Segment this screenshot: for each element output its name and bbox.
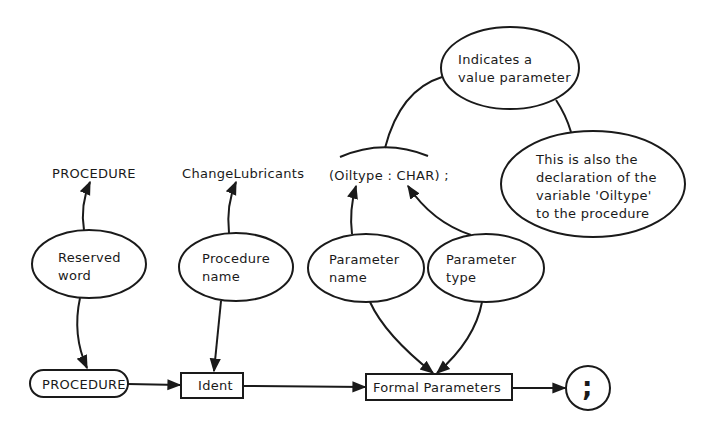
token-procedure-name: ChangeLubricants xyxy=(182,166,304,181)
note-reserved-word-line1: Reserved xyxy=(58,250,121,265)
arrow-paramtype-to-token xyxy=(408,186,471,235)
note-procedure-name: Procedure name xyxy=(179,233,293,301)
flow-procedure-to-ident xyxy=(128,384,180,385)
note-reserved-word: Reserved word xyxy=(32,230,146,298)
note-value-parameter: Indicates a value parameter xyxy=(441,27,579,109)
note-procedure-name-line1: Procedure xyxy=(202,251,270,266)
syntax-node-ident-label: Ident xyxy=(198,378,233,393)
connector-arc-to-value-note xyxy=(385,77,442,148)
note-declaration-line2: declaration of the xyxy=(536,170,657,185)
note-declaration: This is also the declaration of the vari… xyxy=(501,131,685,237)
arrow-reserved-to-token xyxy=(83,182,90,230)
procedure-syntax-diagram: PROCEDURE ChangeLubricants (Oiltype : CH… xyxy=(0,0,704,423)
arrow-paramname-to-token xyxy=(351,186,356,234)
syntax-node-procedure: PROCEDURE xyxy=(30,370,128,397)
note-parameter-name: Parameter name xyxy=(308,234,424,302)
flow-ident-to-formal xyxy=(243,386,365,387)
syntax-node-ident: Ident xyxy=(181,373,243,398)
syntax-node-formal-parameters: Formal Parameters xyxy=(366,374,512,400)
arrow-procname-to-token xyxy=(228,182,236,233)
note-declaration-line4: to the procedure xyxy=(536,206,649,221)
syntax-node-procedure-label: PROCEDURE xyxy=(42,377,126,392)
arrow-paramname-to-node xyxy=(370,302,433,373)
note-value-parameter-line2: value parameter xyxy=(458,70,571,85)
note-parameter-type: Parameter type xyxy=(428,234,544,302)
connector-value-to-declaration xyxy=(556,100,571,132)
syntax-node-semicolon: ; xyxy=(566,366,610,410)
note-reserved-word-line2: word xyxy=(58,268,91,283)
note-parameter-name-line2: name xyxy=(329,270,367,285)
note-parameter-type-line1: Parameter xyxy=(446,252,517,267)
token-parameters: (Oiltype : CHAR) ; xyxy=(329,168,449,183)
note-procedure-name-line2: name xyxy=(202,269,240,284)
note-parameter-name-line1: Parameter xyxy=(329,252,400,267)
note-parameter-type-line2: type xyxy=(446,270,476,285)
parameter-bracket-arc xyxy=(340,147,428,157)
token-procedure: PROCEDURE xyxy=(52,166,136,181)
note-value-parameter-line1: Indicates a xyxy=(458,52,532,67)
note-declaration-line3: variable 'Oiltype' xyxy=(536,188,652,203)
note-declaration-line1: This is also the xyxy=(535,152,638,167)
arrow-reserved-to-node xyxy=(77,298,87,368)
arrow-procname-to-node xyxy=(214,301,221,371)
syntax-node-semicolon-label: ; xyxy=(582,372,593,402)
arrow-paramtype-to-node xyxy=(437,302,482,373)
syntax-node-formal-parameters-label: Formal Parameters xyxy=(373,380,501,395)
